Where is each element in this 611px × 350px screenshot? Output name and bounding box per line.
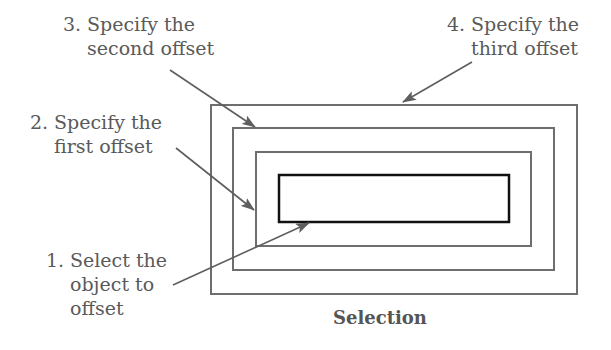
step-3-text-line2: second offset xyxy=(63,36,214,60)
step-1-text-line1: Select the xyxy=(70,249,167,271)
step-3-label: 3.Specify the second offset xyxy=(63,12,214,60)
step-3-text-line1: Specify the xyxy=(87,13,195,35)
arrow-step-1 xyxy=(173,223,309,285)
step-2-text-line1: Specify the xyxy=(54,111,162,133)
step-4-label: 4.Specify the third offset xyxy=(447,12,579,60)
step-2-number: 2. xyxy=(30,110,54,134)
arrow-step-2 xyxy=(176,148,254,210)
step-1-text-line3: offset xyxy=(46,296,167,320)
arrow-step-3 xyxy=(170,70,255,127)
step-4-number: 4. xyxy=(447,12,471,36)
original-object-rect xyxy=(279,175,509,222)
offset-diagram: 3.Specify the second offset 4.Specify th… xyxy=(0,0,611,350)
second-offset-rect xyxy=(233,128,554,270)
third-offset-rect xyxy=(211,105,577,294)
step-1-number: 1. xyxy=(46,248,70,272)
step-2-label: 2.Specify the first offset xyxy=(30,110,162,158)
step-4-text-line2: third offset xyxy=(447,36,579,60)
step-2-text-line2: first offset xyxy=(30,134,162,158)
step-4-text-line1: Specify the xyxy=(471,13,579,35)
diagram-caption: Selection xyxy=(333,307,427,328)
step-1-label: 1.Select the object to offset xyxy=(46,248,167,320)
step-3-number: 3. xyxy=(63,12,87,36)
arrow-step-4 xyxy=(403,62,472,102)
step-1-text-line2: object to xyxy=(46,272,167,296)
first-offset-rect xyxy=(256,152,531,246)
